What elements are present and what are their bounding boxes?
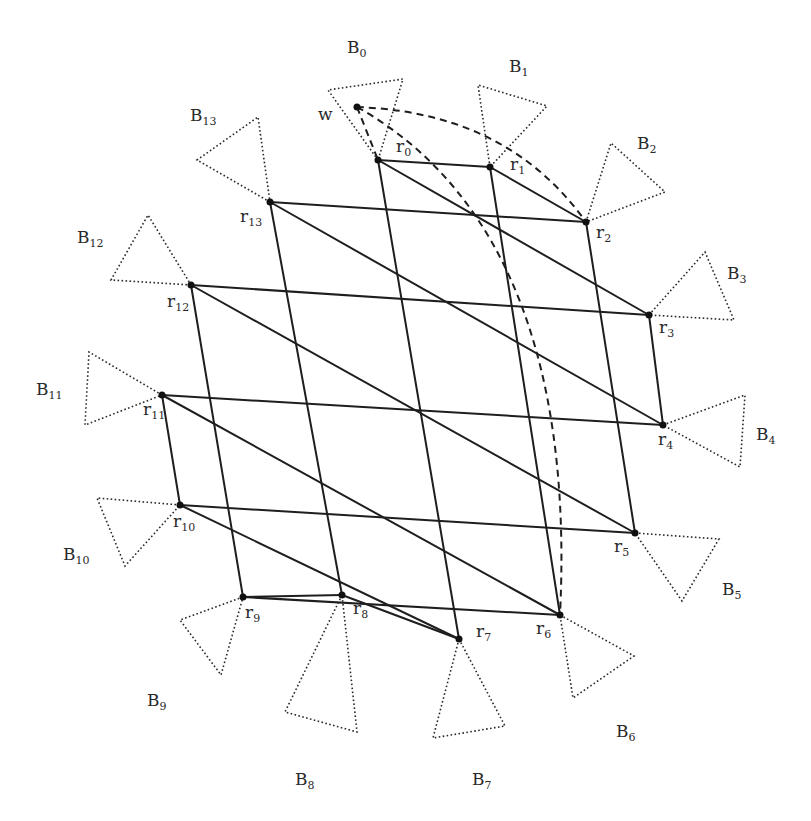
node-r13 [267,199,274,206]
sector-label-b4: B4 [756,424,776,447]
sector-label-b11: B11 [36,379,63,402]
edge-r0-r7 [378,160,459,639]
node-r8 [339,592,346,599]
edge-r12-r5 [191,285,635,533]
node-label-r12: r12 [167,291,189,314]
sector-label-b8: B8 [295,769,315,792]
sector-label-b13: B13 [190,105,217,128]
edge-r1-r6 [490,167,560,615]
node-r1 [487,164,494,171]
sector-label-b6: B6 [616,721,636,744]
sector-label-b10: B10 [63,544,90,567]
labels: r0r1r2r3r4r5r6r7r8r9r10r11r12r13B0B1B2B3… [36,37,776,792]
dashed-path-w-to-r6 [357,107,561,615]
node-label-w: w [318,104,333,124]
node-r2 [583,219,590,226]
node-label-r10: r10 [173,511,195,534]
sector-label-b1: B1 [509,56,529,79]
sector-triangle-b9 [180,597,243,675]
node-label-r1: r1 [510,154,525,177]
sector-label-b0: B0 [347,37,367,60]
sector-triangles [85,79,745,738]
sector-triangle-b7 [433,639,505,738]
edge-r10-r5 [180,505,635,533]
node-label-r9: r9 [245,602,260,625]
edge-r12-r3 [191,285,649,315]
rendezvous-diagram: r0r1r2r3r4r5r6r7r8r9r10r11r12r13B0B1B2B3… [0,0,811,821]
node-r0 [375,157,382,164]
node-r3 [646,312,653,319]
edge-r12-r9 [191,285,243,597]
node-label-r3: r3 [659,317,674,340]
node-label-r2: r2 [596,222,611,245]
sector-triangle-b0 [328,79,403,160]
dashed-path-w-to-r0 [357,107,378,160]
node-r5 [632,530,639,537]
nodes [159,104,667,643]
dashed-path-w-to-r2 [357,107,586,222]
node-r9 [240,594,247,601]
node-r11 [159,392,166,399]
node-r4 [660,422,667,429]
edge-r9-r8 [243,595,342,597]
node-label-r4: r4 [658,429,673,452]
node-r7 [456,636,463,643]
sector-triangle-b5 [635,533,719,601]
node-label-r8: r8 [353,598,368,621]
edge-r10-r7 [180,505,459,639]
sector-triangle-b12 [111,215,191,285]
node-label-r13: r13 [240,206,262,229]
sector-triangle-b4 [663,395,745,467]
node-w [354,104,361,111]
node-label-r0: r0 [396,136,411,159]
edge-r2-r5 [586,222,635,533]
sector-triangle-b10 [97,498,180,566]
solid-edges [162,160,663,639]
node-label-r6: r6 [536,618,551,641]
node-r6 [557,612,564,619]
node-label-r11: r11 [143,399,165,422]
sector-label-b2: B2 [637,133,657,156]
sector-label-b5: B5 [722,579,742,602]
node-r12 [188,282,195,289]
edge-r13-r8 [270,202,342,595]
edge-r13-r2 [270,202,586,222]
edge-r1-r2 [490,167,586,222]
sector-label-b12: B12 [77,227,104,250]
sector-triangle-b3 [649,252,734,320]
sector-label-b7: B7 [472,769,492,792]
sector-triangle-b6 [560,615,634,698]
sector-label-b3: B3 [727,263,747,286]
sector-triangle-b8 [285,595,357,732]
node-label-r7: r7 [476,621,491,644]
sector-label-b9: B9 [147,690,167,713]
node-label-r5: r5 [614,536,629,559]
node-r10 [177,502,184,509]
sector-triangle-b13 [197,117,270,202]
edge-r11-r6 [162,395,560,615]
edge-r11-r4 [162,395,663,425]
